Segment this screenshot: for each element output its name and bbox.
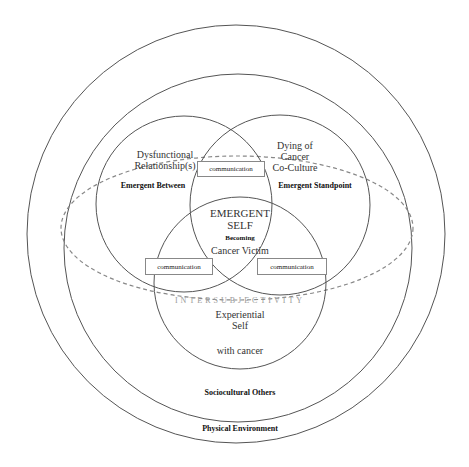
communication-box-top: communication [197, 161, 265, 177]
cancer-victim-label: Cancer Victim [190, 245, 290, 256]
center-line1: EMERGENT [190, 207, 290, 219]
communication-box-left: communication [145, 258, 213, 275]
becoming-label: Becoming [200, 235, 280, 243]
center-line2: SELF [190, 219, 290, 231]
emergent-self-label: EMERGENT SELF [190, 207, 290, 231]
left-title-line1: Dysfunctional [120, 149, 210, 160]
emergent-standpoint-label: Emergent Standpoint [270, 182, 360, 191]
bottom-title-line1: Experiential [195, 309, 285, 320]
intersubjectivity-label: INTERSUBJECTIVITY [170, 297, 310, 306]
sociocultural-others-label: Sociocultural Others [180, 389, 300, 398]
communication-box-right: communication [257, 258, 327, 275]
physical-environment-label: Physical Environment [180, 425, 300, 434]
right-title-line1: Dying of [250, 140, 340, 151]
bottom-title-line2: Self [195, 320, 285, 331]
experiential-self-label: Experiential Self [195, 309, 285, 331]
with-cancer-label: with cancer [195, 345, 285, 356]
emergent-between-label: Emergent Between [108, 182, 198, 191]
